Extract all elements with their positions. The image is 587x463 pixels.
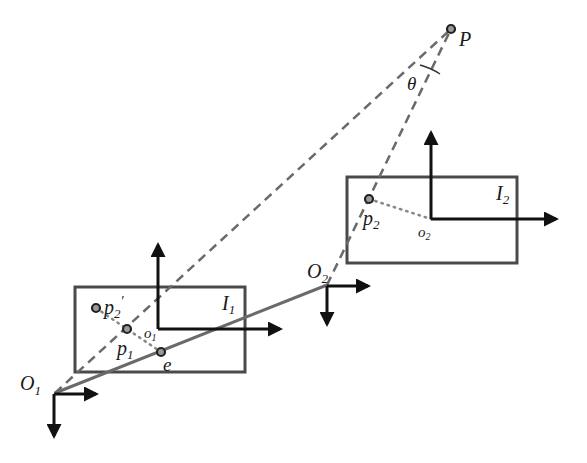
point-p2 [365,195,373,203]
label-theta: θ [407,73,416,94]
label-p2: p2 [361,207,380,232]
theta-arc [420,65,440,74]
label-I2: I2 [495,182,510,207]
point-p2-prime [92,304,100,312]
epipolar-diagram: P θ O1 O2 I1 I2 p2 p1 p2′ o1 o2 e [0,0,587,463]
baseline-o1-o2 [55,285,327,393]
label-o1: o1 [144,325,157,343]
dotted-p2-o2 [369,199,431,219]
label-P: P [458,28,471,50]
label-O1: O1 [20,372,41,398]
label-I1: I1 [221,292,235,317]
label-e: e [163,354,171,375]
label-p1: p1 [115,337,134,362]
label-o2: o2 [418,224,431,242]
point-p1 [123,325,131,333]
ray-o1-to-p [55,29,451,393]
point-P [447,25,455,33]
label-p2-prime: p2′ [102,294,125,321]
label-O2: O2 [307,260,328,286]
